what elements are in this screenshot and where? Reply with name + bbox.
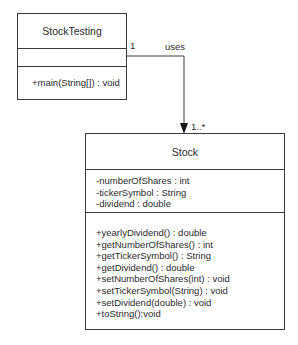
- method: +yearlyDividend() : double: [96, 227, 284, 239]
- target-multiplicity: 1..*: [191, 121, 205, 132]
- class-name: Stock: [86, 134, 284, 170]
- attribute: -tickerSymbol : String: [96, 187, 284, 199]
- method: +getNumberOfShares() : int: [96, 239, 284, 251]
- method: +setNumberOfShares(int) : void: [96, 273, 284, 285]
- class-stock[interactable]: Stock -numberOfShares : int -tickerSymbo…: [85, 133, 285, 330]
- source-multiplicity: 1: [130, 40, 135, 51]
- method: +setDividend(double) : void: [96, 297, 284, 309]
- attributes-compartment: [18, 49, 126, 67]
- methods-compartment: +main(String[]) : void: [18, 67, 126, 99]
- method: +toString():void: [96, 308, 284, 320]
- class-stocktesting[interactable]: StockTesting +main(String[]) : void: [17, 13, 127, 100]
- association-label: uses: [165, 41, 185, 52]
- method: +main(String[]) : void: [32, 77, 126, 89]
- attributes-compartment: -numberOfShares : int -tickerSymbol : St…: [86, 170, 284, 213]
- method: +getDividend() : double: [96, 262, 284, 274]
- attribute: -dividend : double: [96, 198, 284, 210]
- attribute: -numberOfShares : int: [96, 175, 284, 187]
- methods-compartment: +yearlyDividend() : double +getNumberOfS…: [86, 213, 284, 329]
- method: +getTickerSymbol() : String: [96, 250, 284, 262]
- class-name: StockTesting: [18, 14, 126, 49]
- method: +setTickerSymbol(String) : void: [96, 285, 284, 297]
